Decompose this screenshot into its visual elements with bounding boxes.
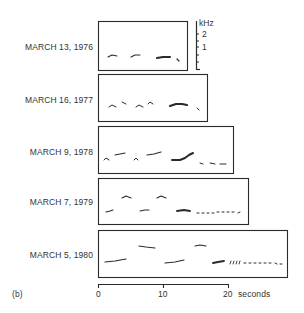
syllable-trace [233,261,234,264]
syllable-trace [157,57,170,58]
syllable-trace [148,102,153,104]
syllable-trace [200,163,203,164]
frequency-unit-label: kHz [199,18,214,28]
time-unit-label: seconds [238,289,270,299]
syllable-trace [139,246,155,248]
syllable-trace [239,261,240,264]
syllable-trace [109,105,116,107]
syllable-trace [134,158,138,160]
syllable-trace [108,55,117,57]
syllable-trace [136,105,143,107]
syllable-trace [170,104,187,106]
syllable-trace [140,210,149,211]
time-tick-0: 0 [96,289,101,299]
syllable-trace [131,55,140,57]
time-tick-20: 20 [223,289,233,299]
sonogram-frame [99,231,288,278]
recording-label-1977: MARCH 16, 1977 [25,95,93,105]
syllable-trace [157,196,166,198]
sonogram-frame [99,127,234,174]
time-tick-10: 10 [158,289,168,299]
syllable-trace [104,158,109,160]
syllable-trace [210,163,215,164]
recording-label-1980: MARCH 5, 1980 [30,250,93,260]
syllable-trace [105,259,126,262]
syllable-trace [147,152,161,155]
syllable-trace [165,260,184,263]
syllable-trace [213,261,224,263]
frequency-tick-2: 2 [202,29,207,39]
syllable-trace [122,102,126,104]
syllable-trace [172,153,193,160]
syllable-trace [177,210,190,211]
syllable-trace [197,108,199,110]
syllable-trace [106,210,113,212]
syllable-trace [236,261,237,264]
syllable-trace [230,261,231,264]
frequency-tick-1: 1 [202,42,207,52]
syllable-trace [177,59,179,61]
syllable-trace [238,212,240,213]
syllable-trace [195,245,206,246]
panel-label: (b) [12,289,23,299]
sonogram-frame [99,75,208,122]
sonogram-frame [99,22,188,71]
recording-label-1978: MARCH 9, 1978 [30,147,93,157]
syllable-trace [122,196,131,198]
recording-label-1979: MARCH 7, 1979 [30,197,93,207]
recording-label-1976: MARCH 13, 1976 [25,42,93,52]
sonogram-frame [99,179,249,225]
syllable-trace [275,263,277,264]
syllable-trace [115,153,125,155]
